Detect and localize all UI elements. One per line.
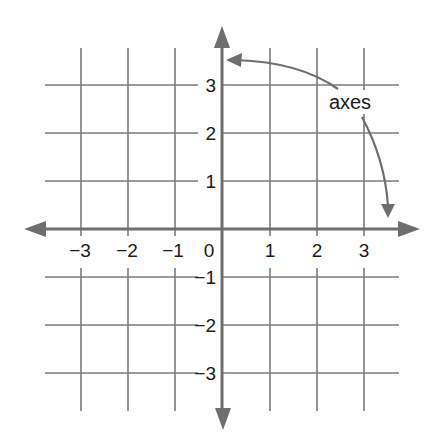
callout-arrow-icon — [381, 204, 395, 218]
x-tick-label: −3 — [69, 240, 91, 261]
axes-annotation-label: axes — [329, 91, 371, 113]
x-tick-label: 1 — [265, 240, 276, 261]
x-axis-left-arrow-icon — [24, 221, 46, 237]
y-axis-bottom-arrow-icon — [215, 408, 231, 430]
x-tick-label: −2 — [116, 240, 138, 261]
callout-arrow-icon — [226, 53, 242, 67]
x-axis-right-arrow-icon — [398, 221, 420, 237]
x-tick-label: 2 — [312, 240, 323, 261]
y-tick-label: 2 — [205, 123, 216, 144]
coordinate-plane: −3 −2 −1 0 1 2 3 3 2 1 −1 −2 −3 axes — [0, 0, 436, 448]
callout-to-x-axis — [362, 117, 388, 206]
x-tick-label: 3 — [359, 240, 370, 261]
x-tick-label: −1 — [162, 240, 184, 261]
y-tick-label: 1 — [205, 171, 216, 192]
y-axis-top-arrow-icon — [214, 26, 230, 48]
y-tick-label: −3 — [194, 363, 216, 384]
y-tick-label: −1 — [194, 267, 216, 288]
y-tick-label: −2 — [194, 315, 216, 336]
y-tick-label: 3 — [205, 75, 216, 96]
x-label-band — [55, 236, 385, 268]
x-tick-label-origin: 0 — [204, 240, 215, 261]
